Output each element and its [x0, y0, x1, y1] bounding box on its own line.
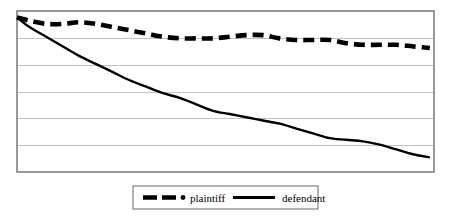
legend-label-defendant: defendant [282, 192, 325, 204]
chart-canvas: plaintiff defendant [0, 0, 449, 220]
legend-label-plaintiff: plaintiff [190, 192, 226, 204]
chart-legend: plaintiff defendant [133, 186, 325, 209]
legend-swatch-plaintiff-dot [181, 195, 186, 200]
line-chart: plaintiff defendant [0, 0, 449, 220]
